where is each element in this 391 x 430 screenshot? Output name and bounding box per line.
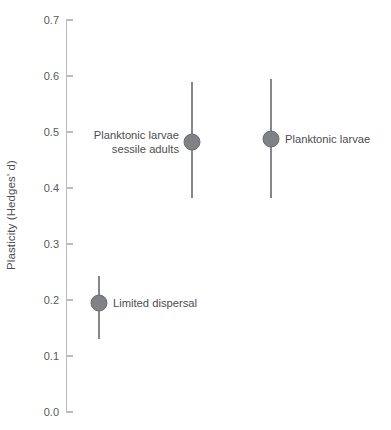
y-axis-tick bbox=[66, 355, 73, 356]
data-point-marker[interactable] bbox=[91, 294, 108, 311]
y-axis-tick-label: 0.1 bbox=[0, 350, 59, 362]
y-axis-tick-label: 0.0 bbox=[0, 406, 59, 418]
y-axis-tick bbox=[66, 75, 73, 76]
y-axis-tick bbox=[66, 243, 73, 244]
y-axis-tick bbox=[66, 299, 73, 300]
y-axis-tick-label: 0.3 bbox=[0, 238, 59, 250]
y-axis-tick-label: 0.6 bbox=[0, 70, 59, 82]
data-point-label: Planktonic larvae bbox=[285, 131, 370, 146]
data-point-marker[interactable] bbox=[184, 133, 201, 150]
y-axis-tick-label: 0.5 bbox=[0, 126, 59, 138]
y-axis-tick bbox=[66, 19, 73, 20]
data-point-label: Planktonic larvae sessile adults bbox=[94, 127, 179, 156]
y-axis-tick bbox=[66, 187, 73, 188]
data-point-marker[interactable] bbox=[263, 130, 280, 147]
y-axis-tick-label: 0.2 bbox=[0, 294, 59, 306]
y-axis-title: Plasticity (Hedges' d) bbox=[0, 0, 22, 430]
forest-plot-figure: Plasticity (Hedges' d) 0.00.10.20.30.40.… bbox=[0, 0, 391, 430]
y-axis-tick-label: 0.7 bbox=[0, 14, 59, 26]
y-axis-tick bbox=[66, 411, 73, 412]
y-axis-tick-label: 0.4 bbox=[0, 182, 59, 194]
y-axis-tick bbox=[66, 131, 73, 132]
y-axis-spine bbox=[66, 20, 67, 413]
data-point-label: Limited dispersal bbox=[113, 296, 197, 311]
